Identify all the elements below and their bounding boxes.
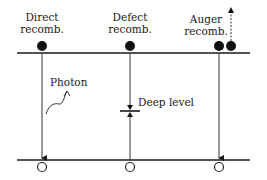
photon-wave-icon: [46, 91, 67, 114]
defect-label-line1: Defect: [113, 11, 149, 23]
auger-label-line2: recomb.: [184, 25, 227, 37]
defect-label-line2: recomb.: [108, 23, 151, 35]
deep-level-label: Deep level: [138, 96, 195, 108]
arrowhead-up-icon: [228, 7, 234, 13]
auger-label-line1: Auger: [189, 13, 223, 25]
hole-icon: [126, 163, 135, 172]
direct-recombination: Direct recomb.: [20, 11, 63, 172]
recombination-diagram: Direct recomb. Photon Defect recomb. Dee…: [0, 0, 267, 180]
photon-emission: Photon: [46, 76, 88, 114]
electron-icon: [125, 41, 135, 51]
electron-icon: [214, 41, 224, 51]
photon-arrowhead-icon: [64, 91, 70, 96]
electron-icon: [37, 41, 47, 51]
auger-recombination: Auger recomb.: [184, 7, 236, 172]
defect-recombination: Defect recomb. Deep level: [108, 11, 194, 172]
photon-label: Photon: [50, 76, 88, 88]
direct-label-line1: Direct: [25, 11, 59, 23]
direct-label-line2: recomb.: [20, 23, 63, 35]
hole-icon: [38, 163, 47, 172]
excited-electron-icon: [226, 41, 236, 51]
arrowhead-down-icon: [127, 105, 133, 110]
hole-icon: [215, 163, 224, 172]
